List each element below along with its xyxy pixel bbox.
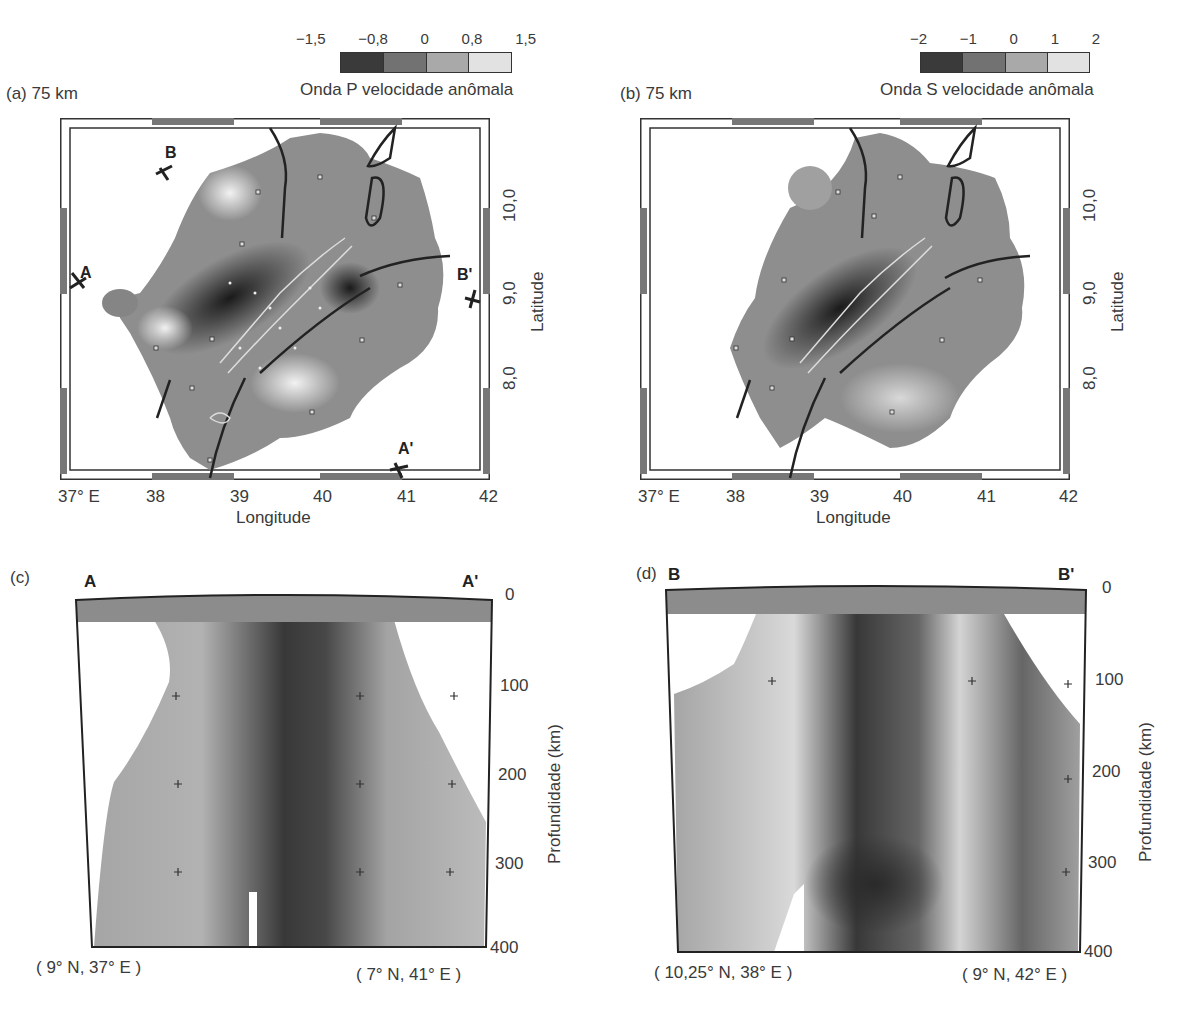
map-b — [640, 118, 1070, 480]
section-start-B: B — [668, 565, 680, 585]
y-tick: 9,0 — [1080, 281, 1100, 305]
depth-axis-label-c: Profundidade (km) — [545, 724, 565, 864]
end-coord-d: ( 9° N, 42° E ) — [962, 965, 1067, 985]
depth-tick: 100 — [500, 676, 528, 696]
y-tick: 10,0 — [1080, 189, 1100, 222]
depth-tick: 300 — [1088, 853, 1116, 873]
depth-tick: 200 — [1092, 762, 1120, 782]
x-tick: 38 — [726, 487, 745, 507]
end-coord-c: ( 7° N, 41° E ) — [356, 965, 461, 985]
x-tick: 40 — [893, 487, 912, 507]
start-coord-c: ( 9° N, 37° E ) — [36, 958, 141, 978]
x-tick: 41 — [977, 487, 996, 507]
section-start-A: A — [84, 572, 96, 592]
depth-tick: 0 — [505, 585, 514, 605]
section-end-B-prime: B' — [1058, 565, 1074, 585]
section-end-A-prime: A' — [462, 572, 478, 592]
y-axis-label-a: Latitude — [528, 272, 548, 333]
y-tick: 8,0 — [500, 366, 520, 390]
y-tick: 9,0 — [500, 281, 520, 305]
depth-tick: 400 — [1084, 942, 1112, 962]
panel-c-label: (c) — [10, 568, 30, 588]
x-axis-label-b: Longitude — [816, 508, 891, 528]
colorbar-a-ticks: −1,5 −0,8 0 0,8 1,5 — [296, 30, 536, 47]
marker-A-prime: A' — [398, 440, 413, 457]
panel-a-label: (a) 75 km — [6, 84, 78, 104]
x-axis-label-a: Longitude — [236, 508, 311, 528]
depth-tick: 300 — [495, 854, 523, 874]
y-tick: 8,0 — [1080, 366, 1100, 390]
panel-d-label: (d) — [636, 564, 657, 584]
depth-axis-label-d: Profundidade (km) — [1136, 722, 1156, 862]
colorbar-a — [340, 52, 512, 73]
x-tick: 39 — [230, 487, 249, 507]
colorbar-b-ticks: −2 −1 0 1 2 — [910, 30, 1100, 47]
colorbar-a-title: Onda P velocidade anômala — [300, 80, 513, 100]
x-tick: 42 — [1059, 487, 1078, 507]
depth-tick: 0 — [1102, 578, 1111, 598]
section-d — [664, 584, 1088, 956]
panel-b-label: (b) 75 km — [620, 84, 692, 104]
x-tick: 38 — [146, 487, 165, 507]
y-axis-label-b: Latitude — [1108, 272, 1128, 333]
marker-A: A — [80, 264, 92, 281]
start-coord-d: ( 10,25° N, 38° E ) — [654, 963, 792, 983]
x-tick: 41 — [397, 487, 416, 507]
x-tick: 37° E — [58, 487, 100, 507]
depth-tick: 100 — [1095, 670, 1123, 690]
marker-B: B — [165, 144, 177, 161]
marker-B-prime: B' — [457, 266, 472, 283]
x-tick: 37° E — [638, 487, 680, 507]
y-tick: 10,0 — [500, 189, 520, 222]
colorbar-b — [920, 52, 1090, 73]
map-a: A A' B B' — [60, 118, 490, 480]
x-tick: 39 — [810, 487, 829, 507]
depth-tick: 200 — [498, 765, 526, 785]
x-tick: 40 — [313, 487, 332, 507]
x-tick: 42 — [479, 487, 498, 507]
colorbar-b-title: Onda S velocidade anômala — [880, 80, 1094, 100]
depth-tick: 400 — [490, 938, 518, 958]
section-c — [74, 592, 494, 952]
